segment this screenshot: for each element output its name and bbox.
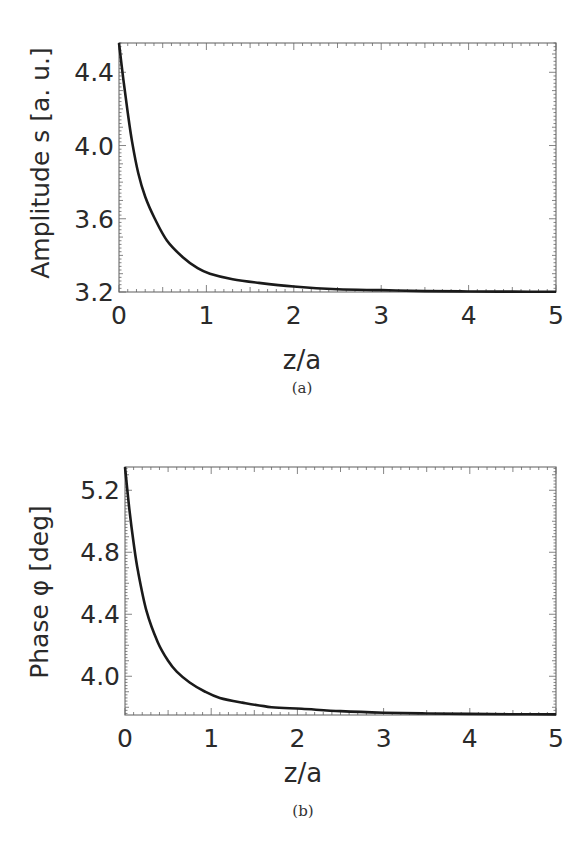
- y-tick-label: 4.0: [80, 662, 120, 691]
- y-tick-label: 4.4: [80, 600, 120, 629]
- x-axis-label: z/a: [284, 758, 322, 788]
- y-tick-label: 4.0: [74, 132, 114, 161]
- caption-b: (b): [292, 802, 313, 820]
- x-axis-label: z/a: [283, 345, 321, 375]
- y-tick-label: 3.2: [74, 278, 114, 307]
- y-axis-label: Amplitude s [a. u.]: [26, 47, 55, 279]
- data-line: [119, 43, 556, 292]
- y-tick-label: 5.2: [80, 476, 120, 505]
- x-tick-label: 5: [548, 301, 564, 330]
- x-tick-label: 2: [289, 724, 305, 753]
- tick-marks: [119, 43, 556, 292]
- x-tick-label: 4: [461, 301, 477, 330]
- x-tick-label: 5: [548, 724, 564, 753]
- data-line: [125, 467, 556, 714]
- amplitude-chart: 0123453.23.64.04.4z/aAmplitude s [a. u.]: [0, 0, 587, 425]
- panel-a: 0123453.23.64.04.4z/aAmplitude s [a. u.]…: [0, 0, 587, 425]
- x-tick-label: 3: [376, 724, 392, 753]
- x-tick-label: 3: [373, 301, 389, 330]
- x-tick-label: 2: [286, 301, 302, 330]
- panel-b: 0123454.04.44.85.2z/aPhase φ [deg] (b): [0, 425, 587, 850]
- tick-marks: [125, 467, 556, 715]
- plot-frame: [125, 467, 556, 715]
- phase-chart: 0123454.04.44.85.2z/aPhase φ [deg]: [0, 425, 587, 850]
- x-tick-label: 4: [462, 724, 478, 753]
- x-tick-label: 1: [203, 724, 219, 753]
- y-axis-label: Phase φ [deg]: [25, 505, 54, 679]
- x-tick-label: 1: [198, 301, 214, 330]
- y-tick-label: 4.4: [74, 58, 114, 87]
- y-tick-label: 4.8: [80, 538, 120, 567]
- x-tick-label: 0: [117, 724, 133, 753]
- y-tick-label: 3.6: [74, 205, 114, 234]
- plot-frame: [119, 43, 556, 292]
- caption-a: (a): [292, 379, 313, 397]
